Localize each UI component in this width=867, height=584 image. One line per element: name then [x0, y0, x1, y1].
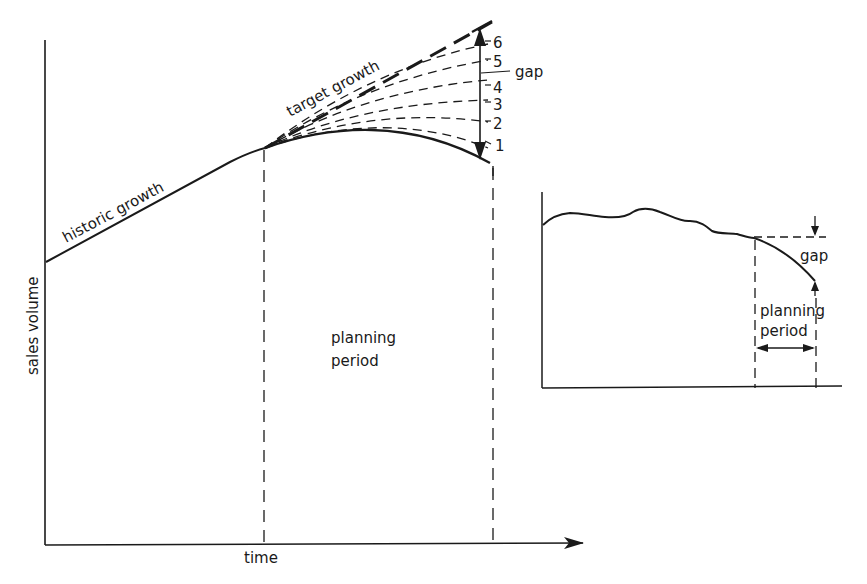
y-axis-label: sales volume [24, 276, 42, 375]
inset-gap-label: gap [800, 247, 828, 265]
inset-period-arrow-right [803, 344, 815, 352]
inset-chart: gap planning period [542, 192, 842, 388]
inset-gap-arrow-top-head [811, 226, 819, 236]
planning-period-label-line2: period [331, 352, 379, 370]
inset-gap-arrow-bottom-head [811, 281, 819, 291]
inset-period-arrow-left [756, 344, 768, 352]
projection-number-6: 6 [493, 34, 503, 52]
gap-label: gap [515, 63, 543, 81]
projection-numbers: 6 5 4 3 2 1 [485, 34, 505, 155]
projection-number-5: 5 [493, 53, 503, 71]
forecast-curve [265, 130, 490, 163]
projection-number-3: 3 [493, 96, 503, 114]
gap-leader-line [481, 71, 510, 73]
inset-planning-label-line2: period [760, 322, 808, 340]
inset-planning-label-line1: planning [760, 302, 825, 320]
x-axis [45, 543, 583, 545]
historic-growth-label: historic growth [59, 178, 166, 247]
gap-arrow-head-bottom [474, 142, 486, 160]
planning-period-label-line1: planning [331, 329, 396, 347]
inset-sales-line [543, 209, 754, 238]
inset-x-axis [542, 386, 842, 388]
projection-number-2: 2 [493, 115, 503, 133]
gap-analysis-diagram: sales volume time historic growth target… [0, 0, 867, 584]
projection-number-1: 1 [495, 137, 505, 155]
historic-growth-line [46, 148, 265, 262]
main-chart: sales volume time historic growth target… [24, 21, 583, 567]
projection-number-4: 4 [493, 79, 503, 97]
target-growth-label: target growth [283, 56, 382, 120]
x-axis-label: time [244, 549, 278, 567]
projection-line-2 [265, 118, 488, 148]
target-end-tick [472, 21, 492, 32]
